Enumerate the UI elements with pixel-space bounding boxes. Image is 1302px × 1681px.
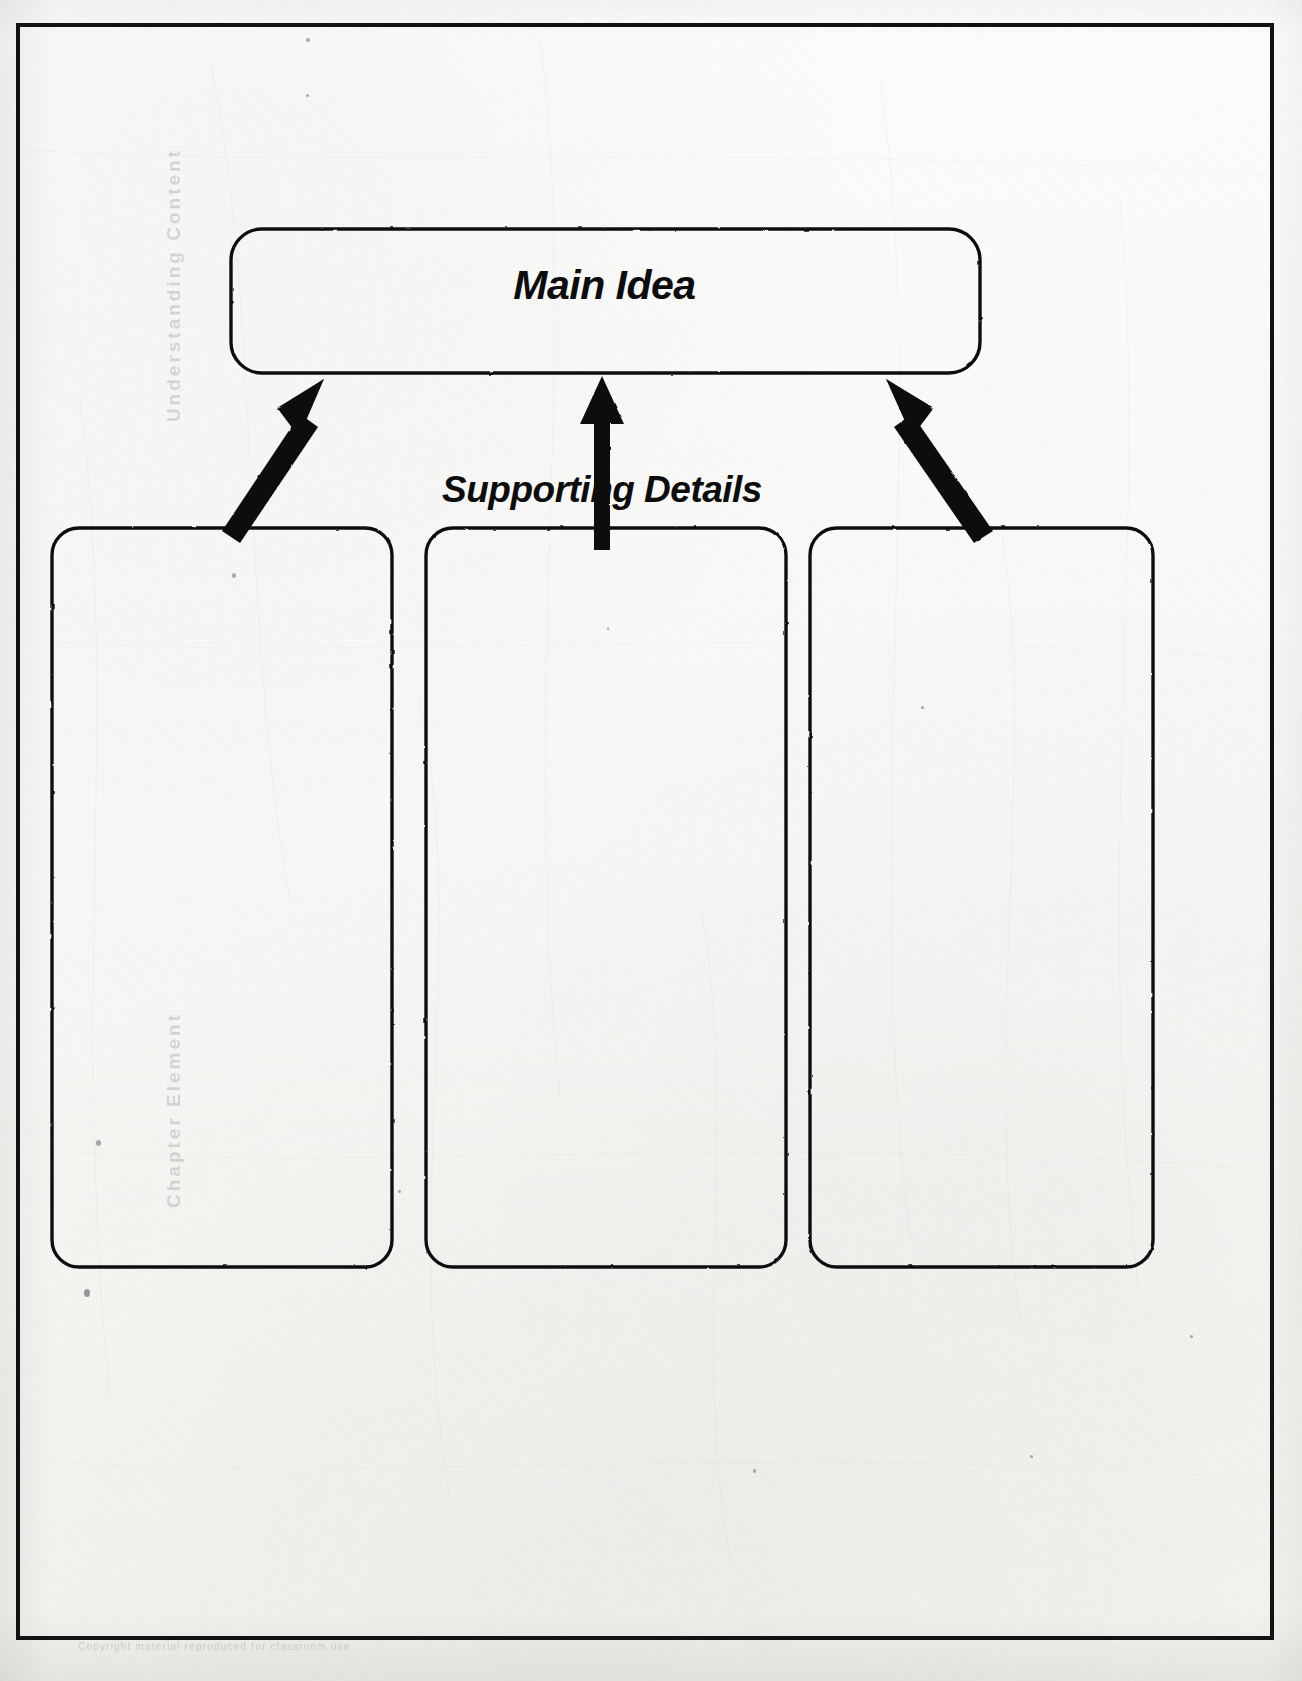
scan-speck bbox=[1190, 1335, 1193, 1338]
bleed-through-text-top: Understanding Content bbox=[163, 148, 185, 422]
scan-speck bbox=[921, 706, 924, 709]
supporting-detail-box-2 bbox=[426, 528, 786, 1267]
scan-speck bbox=[306, 38, 310, 42]
arrow-center bbox=[580, 376, 624, 550]
scan-speck bbox=[1030, 1455, 1033, 1458]
bleed-through-text-footer: Copyright material reproduced for classr… bbox=[78, 1641, 351, 1652]
supporting-details-label: Supporting Details bbox=[0, 469, 1204, 511]
arrow-right bbox=[886, 379, 993, 543]
scan-speck bbox=[84, 1289, 90, 1297]
scan-speck bbox=[398, 1190, 401, 1193]
worksheet-page: Main Idea Supporting Details Understandi… bbox=[0, 0, 1302, 1681]
scan-speck bbox=[96, 1140, 101, 1146]
scan-speck bbox=[306, 94, 309, 97]
bleed-through-text-bottom: Chapter Element bbox=[163, 1012, 185, 1208]
scan-speck bbox=[232, 573, 236, 578]
supporting-detail-box-3 bbox=[810, 528, 1153, 1267]
scan-speck bbox=[753, 1469, 756, 1473]
supporting-detail-box-1 bbox=[52, 528, 392, 1267]
arrow-left bbox=[222, 379, 324, 543]
scan-speck bbox=[607, 627, 609, 630]
graphic-organizer-diagram bbox=[0, 0, 1302, 1681]
